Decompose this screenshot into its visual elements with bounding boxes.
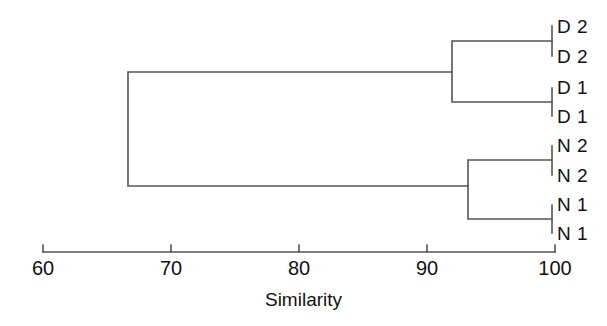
leaf-label-5: N 2 [557,166,588,185]
leaf-label-3: D 1 [557,107,588,126]
leaf-label-0: D 2 [557,17,588,36]
x-tick-label-60: 60 [32,258,54,278]
leaf-label-2: D 1 [557,78,588,97]
leaf-label-6: N 1 [557,195,588,214]
x-tick-label-90: 90 [416,258,438,278]
leaf-label-7: N 1 [557,224,588,243]
leaf-label-4: N 2 [557,136,588,155]
x-tick-label-70: 70 [160,258,182,278]
leaf-label-1: D 2 [557,47,588,66]
dendrogram-link-m5 [452,41,552,102]
dendrogram-figure: D 2 D 2 D 1 D 1 N 2 N 2 N 1 N 1 60 70 80… [0,0,607,326]
x-axis-title: Similarity [0,290,607,309]
dendrogram-link-m7 [128,72,468,186]
x-tick-label-80: 80 [288,258,310,278]
x-tick-label-100: 100 [538,258,571,278]
dendrogram-link-m6 [468,160,552,219]
